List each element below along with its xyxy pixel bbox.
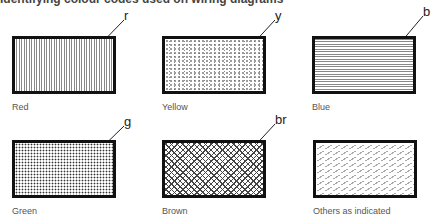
swatch-brown xyxy=(162,140,266,198)
label-others: Others as indicated xyxy=(313,206,391,216)
swatch-green xyxy=(12,140,116,198)
code-yellow: y xyxy=(275,8,282,23)
swatch-yellow xyxy=(162,36,266,94)
swatch-red xyxy=(12,36,116,94)
label-brown: Brown xyxy=(162,206,188,216)
code-green: g xyxy=(124,114,131,129)
swatch-blue xyxy=(312,36,416,94)
swatch-others xyxy=(313,140,417,198)
code-blue: b xyxy=(423,4,430,19)
label-yellow: Yellow xyxy=(162,102,188,112)
label-blue: Blue xyxy=(312,102,330,112)
label-red: Red xyxy=(12,102,29,112)
figure-caption: Identifying colour codes used on wiring … xyxy=(0,0,283,6)
code-red: r xyxy=(124,8,128,23)
code-brown: br xyxy=(275,112,287,127)
label-green: Green xyxy=(12,206,37,216)
